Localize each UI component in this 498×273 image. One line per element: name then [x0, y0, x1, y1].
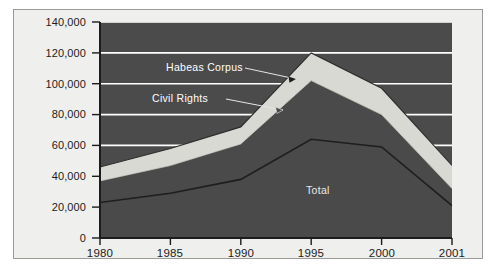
series-label-civil-rights: Civil Rights — [152, 92, 208, 104]
series-label-habeas-corpus: Habeas Corpus — [166, 61, 243, 73]
x-tick-label-1980: 1980 — [70, 247, 130, 259]
x-tick-label-1985: 1985 — [140, 247, 200, 259]
x-tick-marks — [100, 238, 452, 245]
x-tick-label-2001: 2001 — [422, 247, 482, 259]
y-tick-label-60000: 60,000 — [20, 139, 86, 151]
x-tick-label-2000: 2000 — [352, 247, 412, 259]
y-tick-label-100000: 100,000 — [20, 78, 86, 90]
y-tick-label-120000: 120,000 — [20, 47, 86, 59]
y-tick-label-80000: 80,000 — [20, 108, 86, 120]
y-tick-label-20000: 20,000 — [20, 201, 86, 213]
series-label-total: Total — [306, 184, 330, 196]
y-tick-label-0: 0 — [20, 232, 86, 244]
y-tick-label-140000: 140,000 — [20, 16, 86, 28]
y-tick-label-40000: 40,000 — [20, 170, 86, 182]
y-tick-marks — [92, 22, 100, 238]
x-tick-label-1995: 1995 — [281, 247, 341, 259]
x-tick-label-1990: 1990 — [211, 247, 271, 259]
chart-figure: 140,000 120,000 100,000 80,000 60,000 40… — [0, 0, 498, 273]
